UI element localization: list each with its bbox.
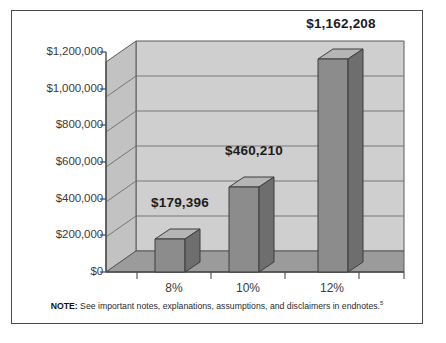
y-tick-label: $200,000 [56, 229, 103, 241]
bar-value-label-8pct: $179,396 [135, 196, 225, 210]
x-tick-label-10pct: 10% [226, 282, 270, 294]
chart-figure: $1,200,000 $1,000,000 $800,000 $600,000 … [0, 0, 446, 343]
y-tick-label: $1,200,000 [46, 46, 103, 58]
footnote-text: See important notes, explanations, assum… [78, 301, 380, 311]
y-axis-labels: $1,200,000 $1,000,000 $800,000 $600,000 … [18, 0, 103, 343]
y-tick-label: $400,000 [56, 193, 103, 205]
y-tick-label: $0 [90, 266, 103, 278]
footnote-superscript: 5 [380, 300, 383, 306]
footnote-label: NOTE: [51, 301, 78, 311]
y-tick-label: $800,000 [56, 119, 103, 131]
y-tick-label: $1,000,000 [46, 83, 103, 95]
bar-value-label-10pct: $460,210 [209, 144, 299, 158]
x-tick-label-12pct: 12% [310, 282, 354, 294]
chart-footnote: NOTE: See important notes, explanations,… [11, 300, 423, 311]
x-tick-label-8pct: 8% [152, 282, 196, 294]
bar-value-label-12pct: $1,162,208 [284, 17, 398, 31]
y-tick-label: $600,000 [56, 156, 103, 168]
